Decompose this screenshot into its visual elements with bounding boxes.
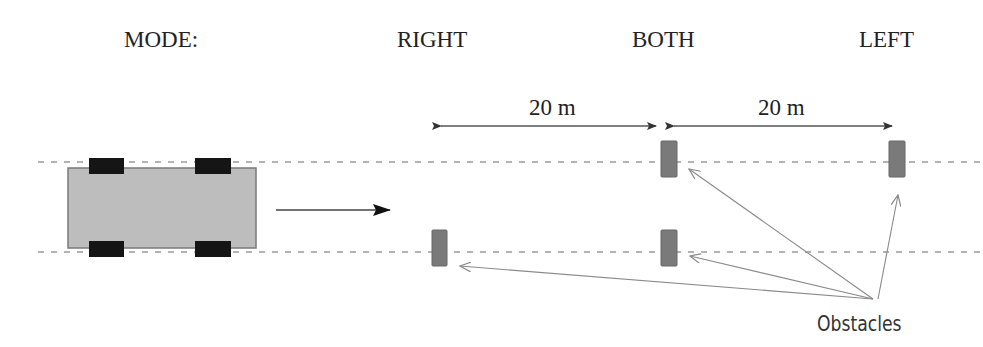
wheel-rear-right: [195, 241, 231, 257]
vehicle-body: [68, 168, 256, 248]
obstacle-both-mode-top: [661, 141, 677, 177]
obstacle-left-mode: [889, 141, 905, 177]
road-diagram: [0, 0, 983, 347]
wheel-front-right: [89, 241, 124, 257]
obstacle-pointers: [460, 169, 898, 299]
wheel-rear-left: [195, 158, 231, 174]
wheel-front-left: [89, 158, 124, 174]
vehicle: [68, 158, 256, 257]
obstacle-both-mode-bottom: [661, 230, 677, 266]
obstacle-right-mode: [432, 230, 447, 266]
